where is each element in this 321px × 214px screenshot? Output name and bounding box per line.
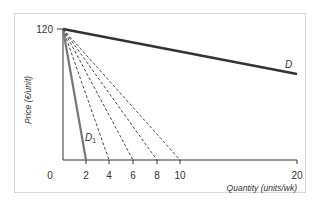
x-tick-label-8: 8 [154, 170, 160, 181]
x-tick-label-0: 0 [47, 170, 53, 181]
x-tick-label-4: 4 [106, 170, 112, 181]
d1-label-subscript: 1 [92, 137, 96, 144]
demand-chart: 120 0 2 4 6 8 10 20 Quantity (units/wk) … [0, 0, 321, 214]
y-tick-label-120: 120 [36, 24, 53, 35]
x-tick-label-2: 2 [83, 170, 89, 181]
x-tick-label-20: 20 [291, 170, 303, 181]
d-curve-label: D [285, 59, 292, 70]
d-demand-line [63, 29, 297, 74]
x-tick-label-6: 6 [130, 170, 136, 181]
d1-demand-line [63, 29, 86, 160]
y-axis-label: Price (€/unit) [23, 76, 33, 124]
x-tick-label-10: 10 [174, 170, 186, 181]
x-axis-label: Quantity (units/wk) [227, 183, 298, 193]
d1-label-main: D [85, 132, 92, 143]
x-ticks [86, 160, 297, 164]
dashed-line-8 [63, 29, 157, 160]
d1-curve-label: D1 [85, 132, 96, 144]
